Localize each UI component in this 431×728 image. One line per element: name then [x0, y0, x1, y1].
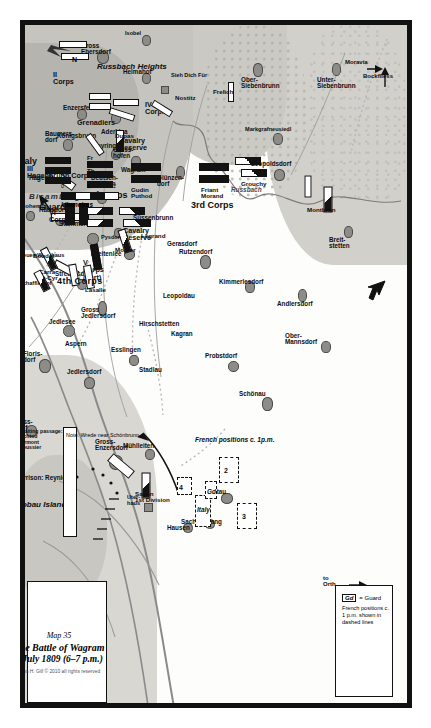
unit-block-grouchy-a[interactable] [235, 157, 261, 165]
village-probstdorf [228, 361, 239, 372]
label-3rd-corps: 3rd Corps [191, 201, 234, 210]
scale-tick-0: 0 [61, 183, 64, 189]
map-frame: Unter- Siebenbrunn Ober- Siebenbrunn Leo… [20, 20, 412, 708]
label-french-1pm-italy: Italy [197, 507, 210, 514]
unit-block-ii-corps-a[interactable] [59, 41, 87, 48]
label-lobau-island: Lobau Island [25, 501, 66, 509]
legend-gd-symbol: Gd [342, 594, 356, 602]
map-page: Unter- Siebenbrunn Ober- Siebenbrunn Leo… [0, 0, 431, 728]
label-italy: Italy [25, 157, 37, 166]
village-ober-siebenbrunn [253, 63, 263, 77]
label-gerasdorf: Gerasdorf [167, 241, 197, 247]
unit-block-grouchy-b[interactable] [241, 169, 267, 177]
label-lasalle: Lasalle [85, 287, 106, 293]
label-gudin-puthod: Gudin Puthod [131, 187, 152, 200]
french-1pm-position-2[interactable] [219, 457, 239, 483]
label-russbach-heights: Russbach Heights [97, 63, 167, 71]
village-muhlleiten [145, 449, 155, 460]
note-box: Note: Wrede near Schönbrunn [63, 427, 77, 537]
unit-block-cavres-fr-a[interactable] [119, 207, 145, 215]
annotation-awaiting-passage: Awaiting passage: Pachtod Marmont Brouss… [25, 429, 62, 450]
scale-seg-1 [62, 193, 76, 199]
unit-block-puthod[interactable] [131, 175, 161, 183]
label-andlersdorf: Andlersdorf [277, 301, 313, 307]
scale-seg-4 [104, 193, 117, 199]
scale-unit-label: kilometres [61, 201, 121, 208]
scale-seg-3 [90, 193, 104, 199]
unit-block-gudin[interactable] [131, 163, 161, 171]
label-gross-enzersdorf: Gross- Enzersdorf [95, 439, 128, 452]
map-subtitle: 5 July 1809 (6–7 p.m.) [25, 654, 141, 665]
label-grenadiers: Grenadiers [77, 119, 115, 126]
label-aspern: Aspern [65, 341, 87, 347]
map-number: Map 35 [25, 631, 141, 640]
map-canvas: Unter- Siebenbrunn Ober- Siebenbrunn Leo… [25, 25, 407, 703]
label-french-positions-1pm: French positions c. 1p.m. [195, 437, 275, 444]
label-french-1pm-gd: Gd [207, 489, 216, 496]
unit-block-cavres-fr-d[interactable] [87, 219, 113, 227]
annotation-bockfliess: Bockfliess [363, 73, 393, 79]
label-sieh-dich-fur: Sieh Dich Für [171, 73, 207, 79]
label-isobel: Isobel [125, 31, 141, 37]
label-hirschstetten: Hirschstetten [139, 321, 179, 327]
village-isobel [142, 35, 151, 46]
unit-block-italy-a[interactable] [45, 157, 71, 164]
map-credit: John H. Gill © 2010 all rights reserved [25, 669, 141, 674]
label-montbrun: Montbrun [307, 207, 336, 213]
label-french-1pm-2: 2 [224, 467, 228, 474]
label-florisdorf: Floris- dorf [25, 351, 42, 364]
label-boudet: Boudet [33, 253, 54, 259]
label-hausen: Hausen [167, 525, 190, 531]
label-friant-morand: Friant Morand [201, 187, 223, 200]
unit-block-morand-b[interactable] [199, 175, 229, 183]
scale-tick-1: 1 [87, 183, 90, 189]
unit-block-iv-corps-a[interactable] [113, 99, 139, 106]
label-frelich: Frelich [213, 89, 233, 95]
unit-block-friant-a[interactable] [199, 163, 229, 171]
label-ii-corps: II Corps [53, 71, 74, 86]
label-dupas: Dupas [115, 133, 134, 139]
label-nostitz: Nostitz [175, 95, 196, 101]
label-schonau: Schönau [239, 391, 266, 397]
title-block: Map 35 The Battle of Wagram 5 July 1809 … [27, 581, 107, 703]
label-gross-jedlersdorf: Gross Jedlersdorf [81, 307, 115, 320]
legend-box: Gd = Guard French positions c. 1 p.m. sh… [335, 585, 393, 697]
label-jedlersdorf: Jedlersdorf [67, 369, 101, 375]
village-rutzendorf [200, 255, 211, 269]
village-schonau [262, 397, 273, 411]
scale-tick-2: 2 [113, 183, 116, 189]
label-kimmerlesdorf: Kimmerlesdorf [219, 279, 263, 285]
label-esslingen: Esslingen [111, 347, 141, 353]
annotation-garrison-reynier: Garrison: Reynier [25, 475, 68, 481]
label-stadlau: Stadlau [139, 367, 162, 373]
annotation-moravia: Moravia [345, 59, 368, 65]
annotation-to-orth: to Orth [323, 575, 336, 587]
label-kagran: Kagran [171, 331, 193, 337]
legend-note: French positions c. 1 p.m. shown in dash… [342, 605, 392, 626]
unit-block-grenadiers-b[interactable] [89, 103, 111, 110]
label-legrand: Legrand [141, 233, 165, 239]
village-nostitz-hill [161, 86, 169, 94]
scale-seg-2 [76, 193, 90, 199]
unit-block-grenadiers[interactable] [89, 93, 111, 100]
label-french-1pm-4: 4 [179, 484, 183, 491]
unit-block-italy-b[interactable] [45, 167, 71, 174]
unit-block-cavres-fr-c[interactable] [87, 207, 113, 215]
map-title: The Battle of Wagram [25, 642, 141, 654]
rotated-map-wrapper: Unter- Siebenbrunn Ober- Siebenbrunn Leo… [20, 20, 412, 708]
village-esslingen [129, 355, 139, 366]
label-probstdorf: Probstdorf [205, 353, 237, 359]
village-unter-siebenbrunn [332, 63, 341, 76]
label-ober-mannsdorf: Ober- Mannsdorf [285, 333, 317, 346]
label-4th-corps: 4th Corps [57, 277, 103, 286]
label-jedlesee: Jedlesee [49, 319, 76, 325]
unit-block-montbrun-b[interactable] [304, 176, 311, 198]
french-1pm-position-3[interactable] [237, 503, 257, 529]
label-russbach-river: Russbach [231, 187, 262, 194]
scale-tick-labels: 0 1 2 [61, 183, 121, 192]
label-leopoldau: Leopoldau [163, 293, 195, 299]
note-box-text: Note: Wrede near Schönbrunn [66, 432, 139, 438]
label-saxon-1st-division: Saxon 1st Division [135, 491, 170, 504]
village-uterhaus [144, 503, 153, 512]
village-leopoldsdorf [274, 169, 285, 181]
